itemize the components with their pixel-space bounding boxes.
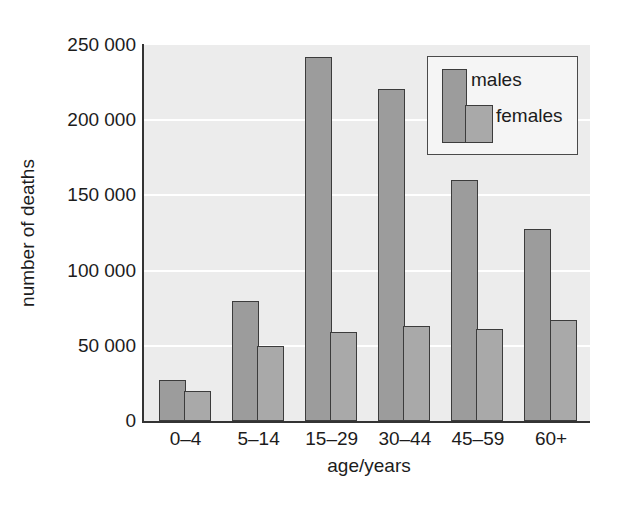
bar-group-30–44 [378,89,431,421]
y-tick-label: 0 [30,410,136,432]
legend: males females [427,56,578,155]
legend-label-females: females [496,106,563,126]
bar-group-5–14 [232,301,285,421]
y-tick-label: 100 000 [30,260,136,282]
bar-group-15–29 [305,57,358,421]
chart: number of deaths males females age/years… [0,0,620,518]
y-axis-title: number of deaths [17,153,39,313]
gridline [144,194,590,196]
x-axis-title: age/years [305,455,433,477]
bar-group-0–4 [159,380,212,421]
bar-females-0–4 [184,391,211,421]
x-tick-label: 60+ [503,428,599,450]
bar-males-5–14 [232,301,259,421]
bar-males-0–4 [159,380,186,421]
bar-females-15–29 [330,332,357,421]
y-tick-label: 150 000 [30,184,136,206]
bar-females-45–59 [476,329,503,421]
bar-group-60+ [524,229,577,422]
legend-swatch-females [465,105,493,143]
bar-females-60+ [550,320,577,421]
y-axis-line [142,44,144,423]
bar-females-5–14 [257,346,284,421]
bar-males-15–29 [305,57,332,421]
legend-swatch-males [442,69,467,143]
bar-males-45–59 [451,180,478,421]
bar-group-45–59 [451,180,504,421]
y-tick-label: 200 000 [30,109,136,131]
x-axis-line [142,421,590,423]
bar-males-30–44 [378,89,405,421]
y-tick-label: 250 000 [30,34,136,56]
bar-females-30–44 [403,326,430,421]
y-tick-label: 50 000 [30,335,136,357]
bar-males-60+ [524,229,551,422]
legend-label-males: males [471,70,522,90]
